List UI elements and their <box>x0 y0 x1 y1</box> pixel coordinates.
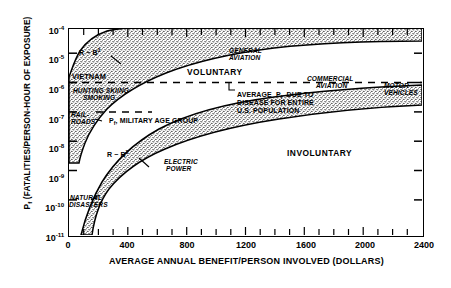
x-tick-label: 400 <box>107 240 147 250</box>
x-tick-label: 1200 <box>226 240 266 250</box>
disease-note-line3: U.S. POPULATION <box>237 107 299 115</box>
vietnam-label: VIETNAM <box>72 73 106 81</box>
x-axis-title: AVERAGE ANNUAL BENEFIT/PERSON INVOLVED (… <box>68 256 425 266</box>
natural-disasters-label-line2: DISASTERS <box>69 201 108 208</box>
x-tick-label: 0 <box>48 240 88 250</box>
general-aviation-label-line2: AVIATION <box>229 54 260 61</box>
military-age-group-label: Pf, MILITARY AGE GROUP <box>109 117 198 126</box>
voluntary-band-label: VOLUNTARY <box>187 68 243 77</box>
y-tick-label: 10-4 <box>34 24 64 36</box>
y-axis-ticks-right <box>414 53 422 200</box>
y-tick-label: 10-6 <box>34 83 64 95</box>
risk-benefit-chart-figure: Pf (FATALITIES/PERSON-HOUR OF EXPOSURE) … <box>0 0 451 288</box>
involuntary-band-label: INVOLUNTARY <box>287 149 352 158</box>
x-tick-label: 2400 <box>404 240 444 250</box>
r-b3-involuntary-annotation: R ~ B3 <box>107 150 128 159</box>
x-tick-label: 2000 <box>345 240 385 250</box>
x-axis-minor-ticks-bottom <box>84 227 408 235</box>
electric-power-label-line2: POWER <box>166 165 191 172</box>
y-tick-label: 10-9 <box>34 172 64 184</box>
y-tick-label: 10-8 <box>34 142 64 154</box>
railroads-label-line2: ROADS <box>71 118 95 125</box>
r-b3-voluntary-annotation: R ~ B3 <box>79 48 100 57</box>
disease-note-leader <box>229 83 235 91</box>
y-tick-label: 10-10 <box>34 201 64 213</box>
y-tick-label: 10-7 <box>34 113 64 125</box>
disease-note-line2: DISEASE FOR ENTIRE <box>237 99 314 107</box>
x-tick-label: 800 <box>167 240 207 250</box>
motor-vehicles-label-line2: VEHICLES <box>384 89 418 96</box>
commercial-aviation-label-line2: AVIATION <box>316 82 347 89</box>
smoking-label: SMOKING <box>83 94 115 101</box>
y-tick-label: 10-5 <box>34 53 64 65</box>
x-tick-label: 1600 <box>286 240 326 250</box>
plot-area: VOLUNTARY INVOLUNTARY R ~ B3 R ~ B3 VIET… <box>68 28 424 237</box>
